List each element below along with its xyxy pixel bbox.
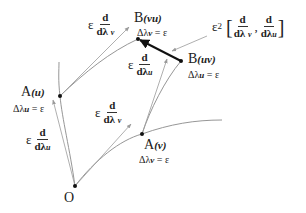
arrow-eps-d-dlv-from-Au (60, 27, 129, 96)
point-O (73, 184, 77, 188)
vector-label-eps-d-dlv-mid: ε ddλ v (95, 100, 121, 125)
arrow-commutator-pointer (172, 36, 207, 51)
label-B-uv-delta: Δλu = ε (188, 70, 219, 80)
label-B-vu: B(vu) (134, 11, 162, 25)
point-A-u (58, 94, 62, 98)
commutator-label: ε2 [ ddλ v , ddλu ] (212, 14, 285, 39)
vector-label-eps-d-dlv-top: ε ddλ v (88, 12, 114, 37)
curve-v (75, 120, 222, 186)
label-A-u-delta: Δλu = ε (13, 104, 44, 114)
arrow-eps-d-dlu-from-O (53, 100, 75, 186)
label-A-v-delta: Δλv = ε (139, 155, 169, 165)
vector-label-eps-d-dlu-left: ε ddλu (26, 127, 50, 152)
curve-a-u-to-b-vu (60, 39, 138, 96)
label-B-vu-delta: Δλv = ε (137, 28, 167, 38)
label-B-uv: B(uv) (188, 52, 216, 66)
point-B-uv (179, 59, 183, 63)
point-A-v (140, 132, 144, 136)
label-A-u: A(u) (21, 85, 45, 99)
arrow-eps-d-dlv-from-O (75, 124, 131, 186)
label-A-v: A(v) (144, 138, 166, 152)
curve-u (59, 62, 75, 186)
label-O: O (64, 191, 74, 205)
vector-label-eps-d-dlu-mid: ε ddλu (128, 52, 152, 77)
